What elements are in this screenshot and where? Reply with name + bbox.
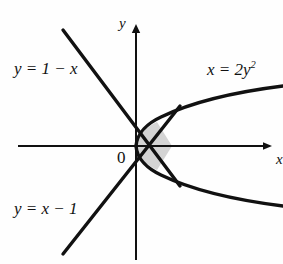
- label-parabola-exponent: 2: [251, 59, 256, 70]
- x-axis-arrowhead: [263, 142, 272, 150]
- label-axis-x: x: [276, 152, 283, 167]
- math-figure: y = 1 − x x = 2y2 y = x − 1 0 y x: [0, 0, 283, 264]
- line-y-equals-x-minus-1: [63, 106, 180, 254]
- figure-canvas: [0, 0, 283, 264]
- label-parabola: x = 2y2: [207, 60, 256, 78]
- label-line-lower: y = x − 1: [14, 200, 78, 217]
- label-axis-y: y: [119, 16, 126, 31]
- label-parabola-base: x = 2y: [207, 60, 251, 79]
- label-line-upper: y = 1 − x: [14, 60, 78, 77]
- label-origin: 0: [117, 149, 126, 166]
- y-axis-arrowhead: [132, 24, 140, 33]
